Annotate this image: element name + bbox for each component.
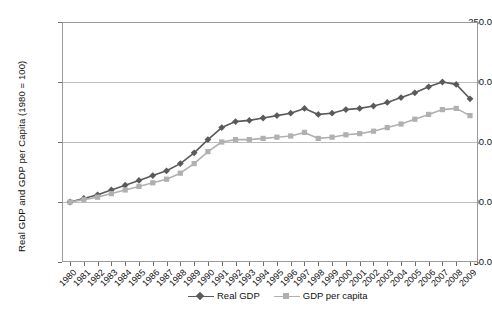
x-tick-mark — [373, 262, 374, 266]
x-tick-mark — [387, 262, 388, 266]
plot-area — [62, 22, 478, 262]
gridline — [63, 82, 477, 83]
x-tick-mark — [249, 262, 250, 266]
x-tick-mark — [167, 262, 168, 266]
x-tick-mark — [291, 262, 292, 266]
x-tick-mark — [70, 262, 71, 266]
x-tick-mark — [153, 262, 154, 266]
gridline — [63, 202, 477, 203]
legend-item-gdp-per-capita: GDP per capita — [274, 291, 368, 301]
y-tick-mark — [58, 262, 62, 263]
legend-marker-square-icon — [274, 291, 300, 301]
x-tick-mark — [277, 262, 278, 266]
x-tick-mark — [222, 262, 223, 266]
x-tick-mark — [236, 262, 237, 266]
legend-marker-diamond-icon — [188, 291, 214, 301]
x-tick-mark — [125, 262, 126, 266]
x-tick-mark — [346, 262, 347, 266]
x-tick-mark — [456, 262, 457, 266]
x-tick-mark — [401, 262, 402, 266]
x-tick-mark — [332, 262, 333, 266]
legend-label-gdp-per-capita: GDP per capita — [303, 291, 368, 301]
chart-container: Real GDP and GDP per Capita (1980 = 100)… — [0, 0, 492, 319]
chart-legend: Real GDP GDP per capita — [188, 291, 368, 301]
legend-label-real-gdp: Real GDP — [217, 291, 260, 301]
x-tick-mark — [470, 262, 471, 266]
x-tick-mark — [263, 262, 264, 266]
gridline — [63, 142, 477, 143]
x-tick-mark — [180, 262, 181, 266]
x-tick-mark — [360, 262, 361, 266]
x-tick-mark — [442, 262, 443, 266]
legend-item-real-gdp: Real GDP — [188, 291, 260, 301]
x-tick-mark — [318, 262, 319, 266]
x-tick-mark — [139, 262, 140, 266]
x-tick-mark — [194, 262, 195, 266]
x-tick-mark — [98, 262, 99, 266]
x-tick-mark — [429, 262, 430, 266]
x-tick-mark — [84, 262, 85, 266]
x-tick-mark — [415, 262, 416, 266]
x-tick-mark — [111, 262, 112, 266]
y-axis-title: Real GDP and GDP per Capita (1980 = 100) — [16, 61, 27, 252]
x-tick-mark — [304, 262, 305, 266]
x-tick-mark — [208, 262, 209, 266]
